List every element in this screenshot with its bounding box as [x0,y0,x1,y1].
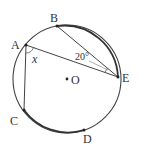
label-b: B [50,11,58,25]
point-o [66,78,69,81]
label-angle-20: 20° [75,51,89,62]
label-o: O [71,73,80,87]
point-e [117,76,120,79]
label-c: C [10,114,18,128]
point-c [23,109,26,112]
label-angle-x: x [31,52,38,66]
point-a [25,44,28,47]
label-e: E [122,71,129,85]
label-a: A [11,38,20,52]
label-d: D [83,132,92,146]
segment-ac [24,45,26,110]
circle-diagram: B A E C D O x 20° [0,0,153,156]
angle-pointer-e [89,61,108,70]
